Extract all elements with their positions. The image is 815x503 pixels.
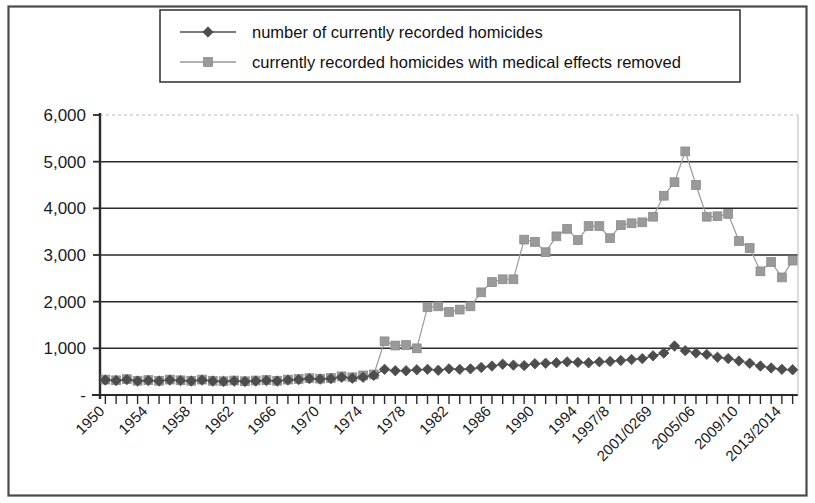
data-point-marker: [445, 308, 454, 317]
data-point-marker: [787, 365, 797, 375]
data-point-marker: [422, 364, 432, 374]
data-point-marker: [680, 345, 690, 355]
data-point-marker: [649, 212, 658, 221]
y-tick-label: 1,000: [43, 339, 86, 358]
data-point-marker: [520, 235, 529, 244]
data-point-marker: [616, 355, 626, 365]
data-point-marker: [476, 362, 486, 372]
chart-figure: 6,0005,0004,0003,0002,0001,000-195019541…: [0, 0, 815, 503]
data-point-marker: [541, 248, 550, 257]
data-point-marker: [691, 348, 701, 358]
x-tick-label: 1970: [287, 402, 323, 438]
data-point-marker: [530, 359, 540, 369]
data-point-marker: [745, 244, 754, 253]
data-point-marker: [626, 354, 636, 364]
y-tick-label: 6,000: [43, 106, 86, 125]
series-medical-effects-removed: [101, 147, 797, 386]
data-point-marker: [444, 364, 454, 374]
data-point-marker: [509, 275, 518, 284]
legend-label: number of currently recorded homicides: [252, 23, 543, 41]
x-tick-label: 1950: [72, 402, 108, 438]
data-point-marker: [455, 364, 465, 374]
x-tick-label: 1986: [458, 402, 494, 438]
y-tick-label: 4,000: [43, 199, 86, 218]
data-point-marker: [412, 365, 422, 375]
data-point-marker: [735, 237, 744, 246]
data-point-marker: [702, 212, 711, 221]
data-point-marker: [401, 366, 411, 376]
data-point-marker: [433, 365, 443, 375]
data-point-marker: [767, 258, 776, 267]
data-point-marker: [616, 221, 625, 230]
data-point-marker: [595, 222, 604, 231]
data-point-marker: [713, 212, 722, 221]
data-point-marker: [788, 256, 797, 265]
data-point-marker: [638, 218, 647, 227]
data-point-marker: [488, 278, 497, 287]
data-point-marker: [498, 275, 507, 284]
data-point-marker: [712, 352, 722, 362]
data-point-marker: [659, 191, 668, 200]
legend-label: currently recorded homicides with medica…: [252, 53, 681, 71]
data-point-marker: [380, 337, 389, 346]
data-point-marker: [390, 366, 400, 376]
x-tick-label: 1966: [244, 402, 280, 438]
data-point-marker: [531, 238, 540, 247]
x-ticks: [105, 395, 792, 404]
data-point-marker: [540, 358, 550, 368]
data-point-marker: [412, 344, 421, 353]
data-point-marker: [627, 219, 636, 228]
data-point-marker: [204, 58, 213, 67]
data-point-marker: [777, 273, 786, 282]
data-point-marker: [637, 353, 647, 363]
x-tick-label: 2005/06: [648, 402, 698, 452]
x-tick-label: 1982: [416, 402, 452, 438]
x-tick-labels: 1950195419581962196619701974197819821986…: [72, 402, 784, 464]
data-point-marker: [466, 302, 475, 311]
data-point-marker: [562, 357, 572, 367]
data-point-marker: [681, 147, 690, 156]
data-point-marker: [497, 359, 507, 369]
data-point-marker: [563, 224, 572, 233]
data-point-marker: [766, 363, 776, 373]
data-point-marker: [669, 341, 679, 351]
data-point-marker: [594, 357, 604, 367]
data-point-marker: [648, 351, 658, 361]
data-point-marker: [465, 364, 475, 374]
data-point-marker: [487, 361, 497, 371]
data-point-marker: [573, 236, 582, 245]
data-point-marker: [692, 181, 701, 190]
data-point-marker: [583, 358, 593, 368]
x-tick-label: 1958: [158, 402, 194, 438]
data-point-marker: [423, 303, 432, 312]
legend-box: [160, 10, 740, 82]
data-point-marker: [723, 353, 733, 363]
data-point-marker: [379, 364, 389, 374]
y-tick-label: 2,000: [43, 293, 86, 312]
data-point-marker: [551, 358, 561, 368]
data-point-marker: [508, 360, 518, 370]
y-tick-label: -: [80, 386, 86, 405]
data-point-marker: [606, 234, 615, 243]
data-point-marker: [391, 341, 400, 350]
data-point-marker: [755, 361, 765, 371]
data-point-marker: [724, 210, 733, 219]
x-tick-label: 1954: [115, 402, 151, 438]
y-tick-label: 5,000: [43, 153, 86, 172]
data-point-marker: [659, 348, 669, 358]
data-point-marker: [777, 364, 787, 374]
data-point-marker: [756, 267, 765, 276]
series-line: [105, 151, 792, 381]
x-tick-label: 1978: [373, 402, 409, 438]
data-point-marker: [702, 349, 712, 359]
data-point-marker: [605, 356, 615, 366]
data-point-marker: [670, 178, 679, 187]
data-point-marker: [519, 360, 529, 370]
data-point-marker: [434, 302, 443, 311]
data-point-marker: [573, 357, 583, 367]
x-tick-label: 1962: [201, 402, 237, 438]
legend: number of currently recorded homicidescu…: [160, 10, 740, 82]
x-tick-label: 1990: [501, 402, 537, 438]
data-point-marker: [584, 222, 593, 231]
data-point-marker: [477, 288, 486, 297]
